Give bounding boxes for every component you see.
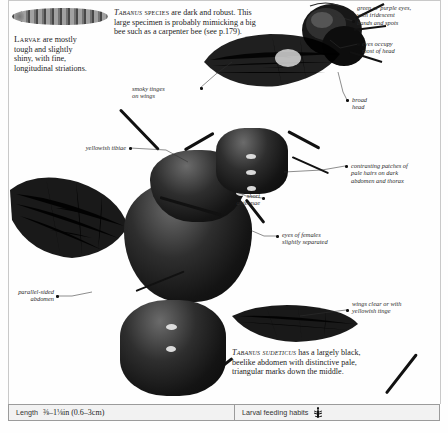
horsefly-leg bbox=[287, 130, 320, 149]
callout-dot bbox=[56, 295, 59, 298]
callout-dot bbox=[345, 165, 348, 168]
horsefly-wing-photo-lower bbox=[228, 300, 362, 346]
tabanus-species-lead-italic: Tabanus bbox=[114, 8, 142, 17]
pale-hair-patch bbox=[247, 186, 256, 191]
horsefly-wing-photo-left bbox=[6, 168, 132, 266]
larva-photo bbox=[12, 8, 108, 25]
page-rule-right bbox=[440, 0, 441, 404]
callout-dot bbox=[129, 147, 132, 150]
info-bar: Length ⅜–1⅛in (0.6–3cm) Larval feeding h… bbox=[8, 404, 440, 421]
guide-page: green or purple eyes, with iridescent ba… bbox=[0, 0, 448, 433]
callout-eyes-of-females: eyes of females slightly separated bbox=[282, 231, 360, 246]
callout-dot bbox=[276, 235, 279, 238]
callout-short-antennae: short antennae bbox=[212, 192, 260, 207]
length-value: ⅜–1⅛in (0.6–3cm) bbox=[43, 408, 104, 417]
callout-dot bbox=[346, 309, 349, 312]
callout-green-purple-eyes: green or purple eyes, with iridescent ba… bbox=[357, 4, 445, 26]
callout-eyes-occupy-head: eyes occupy most of head bbox=[362, 40, 442, 55]
callout-parallel-sided-abdomen: parallel-sided abdomen bbox=[4, 288, 54, 303]
callout-dot bbox=[352, 20, 355, 23]
horsefly-wing-photo-upper bbox=[196, 28, 346, 94]
pale-hair-patch bbox=[166, 346, 176, 352]
pale-hair-patch bbox=[166, 324, 177, 330]
larvae-caption-lead: Larvae bbox=[14, 34, 41, 44]
tabanus-species-caption: Tabanus species are dark and robust. Thi… bbox=[114, 8, 258, 37]
callout-dot bbox=[357, 43, 360, 46]
callout-dot bbox=[262, 197, 265, 200]
horsefly-leg bbox=[292, 156, 330, 174]
callout-broad-head: broad head bbox=[352, 96, 400, 111]
tabanus-species-lead-caps: species bbox=[142, 8, 169, 17]
horsefly-leg bbox=[385, 353, 418, 394]
larvae-caption: Larvae are mostly tough and slightly shi… bbox=[14, 35, 90, 73]
info-cell-length: Length ⅜–1⅛in (0.6–3cm) bbox=[9, 405, 235, 420]
callout-dot bbox=[200, 87, 203, 90]
pale-hair-patch bbox=[246, 170, 256, 175]
callout-contrasting-patches: contrasting patches of pale hairs on dar… bbox=[351, 162, 445, 184]
horsefly-abdomen-photo-top bbox=[216, 128, 288, 194]
tabanus-sudeticus-lead-italic: Tabanus sudeticus bbox=[232, 348, 296, 357]
length-label: Length bbox=[16, 408, 38, 417]
beetle-larva-icon bbox=[313, 407, 322, 418]
horsefly-leg bbox=[184, 132, 215, 151]
callout-yellowish-tibiae: yellowish tibiae bbox=[34, 144, 126, 151]
callout-dot bbox=[346, 99, 349, 102]
tabanus-sudeticus-caption: Tabanus sudeticus has a largely black, b… bbox=[232, 348, 380, 377]
callout-wings-clear: wings clear or with yellowish tinge bbox=[352, 300, 438, 315]
callout-smoky-tinges: smoky tinges on wings bbox=[132, 85, 202, 100]
habits-label: Larval feeding habits bbox=[242, 408, 308, 417]
pale-hair-patch bbox=[246, 154, 256, 159]
info-cell-habits: Larval feeding habits bbox=[235, 405, 329, 420]
